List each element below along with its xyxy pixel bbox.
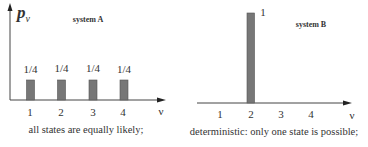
tick-label: 4 — [308, 108, 314, 120]
value-label: 1/4 — [86, 62, 101, 74]
tick-label: 3 — [278, 108, 284, 120]
chart-title: system A — [73, 15, 104, 24]
tick-label: 3 — [90, 106, 96, 118]
bar-2 — [58, 80, 66, 100]
x-axis-arrow-icon — [343, 101, 352, 106]
chart-system-a: pν system A 1/4 1/4 1/4 1/4 1 2 3 4 ν al… — [8, 3, 167, 135]
tick-label: 2 — [248, 108, 254, 120]
x-axis-label: ν — [159, 105, 164, 117]
bar-2 — [247, 13, 255, 103]
bar-4 — [120, 80, 128, 100]
y-axis-arrow-icon — [8, 3, 13, 11]
tick-label: 2 — [58, 106, 64, 118]
chart-title: system B — [296, 20, 327, 29]
chart-system-b: 1 system B 1 2 3 4 ν deterministic: only… — [190, 6, 358, 137]
x-axis-arrow-icon — [157, 98, 166, 103]
tick-label: 1 — [27, 106, 33, 118]
figure: pν system A 1/4 1/4 1/4 1/4 1 2 3 4 ν al… — [0, 0, 368, 147]
value-label: 1/4 — [117, 63, 132, 75]
y-axis-label: pν — [15, 3, 31, 24]
bar-3 — [89, 80, 97, 100]
value-label: 1/4 — [54, 62, 69, 74]
caption: all states are equally likely; — [29, 124, 144, 135]
bar-1 — [27, 80, 35, 100]
x-axis-label: ν — [350, 109, 355, 121]
value-label: 1/4 — [23, 63, 38, 75]
tick-label: 1 — [217, 108, 223, 120]
caption: deterministic: only one state is possibl… — [190, 126, 358, 137]
value-label: 1 — [260, 6, 266, 18]
tick-label: 4 — [120, 106, 126, 118]
